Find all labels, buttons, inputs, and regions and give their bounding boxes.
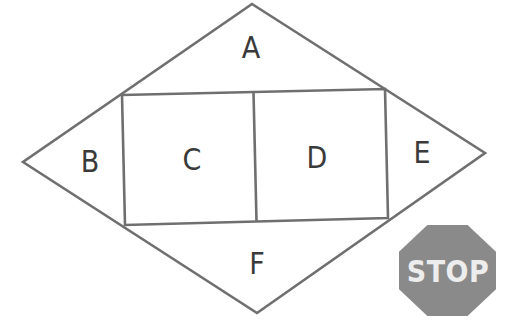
stop-sign-text: STOP — [407, 254, 490, 289]
region-label-e: E — [413, 135, 430, 170]
figure-container: A B C D E F STOP — [0, 0, 511, 329]
region-label-c: C — [183, 142, 202, 177]
region-label-d: D — [307, 140, 328, 175]
diagram-canvas: A B C D E F STOP — [0, 0, 511, 329]
region-label-f: F — [249, 246, 265, 281]
region-label-a: A — [242, 30, 261, 65]
rectangle-divider-line — [254, 92, 257, 222]
region-label-b: B — [81, 144, 100, 179]
